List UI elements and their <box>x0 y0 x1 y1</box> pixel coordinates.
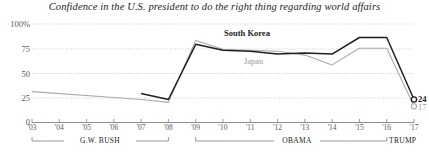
endpoint-marker-south-korea <box>411 97 416 102</box>
series-label-south-korea: South Korea <box>224 28 270 38</box>
plot-area: 100% 75 50 25 0 '03 '04 '05 '06 '07 '08 … <box>0 0 429 152</box>
x-tick-label-16: '16 <box>376 123 398 132</box>
x-tick-label-10: '10 <box>212 123 234 132</box>
era-label-obama: OBAMA <box>274 136 320 145</box>
x-tick-label-08: '08 <box>157 123 179 132</box>
x-tick-label-06: '06 <box>103 123 125 132</box>
gridlines <box>32 24 414 98</box>
y-tick-label-50: 50 <box>0 69 30 79</box>
series-label-japan: Japan <box>244 56 263 66</box>
y-tick-label-75: 75 <box>0 44 30 54</box>
endpoint-marker-japan <box>411 104 416 109</box>
endpoint-value-japan: 17 <box>418 102 427 112</box>
x-tick-label-11: '11 <box>239 123 261 132</box>
x-tick-label-04: '04 <box>48 123 70 132</box>
x-tick-label-15: '15 <box>348 123 370 132</box>
era-label-bush: G.W. BUSH <box>64 136 136 145</box>
x-tick-label-13: '13 <box>294 123 316 132</box>
x-axis <box>32 119 414 123</box>
x-tick-label-17: '17 <box>403 123 425 132</box>
x-tick-label-09: '09 <box>185 123 207 132</box>
chart-container: Confidence in the U.S. president to do t… <box>0 0 429 152</box>
y-tick-label-25: 25 <box>0 93 30 103</box>
x-tick-label-05: '05 <box>76 123 98 132</box>
x-tick-label-12: '12 <box>267 123 289 132</box>
era-label-trump: TRUMP <box>389 136 429 145</box>
x-tick-label-03: '03 <box>21 123 43 132</box>
series-line-south-korea <box>141 38 414 100</box>
x-tick-label-07: '07 <box>130 123 152 132</box>
x-tick-label-14: '14 <box>321 123 343 132</box>
y-tick-label-100: 100% <box>0 19 30 29</box>
